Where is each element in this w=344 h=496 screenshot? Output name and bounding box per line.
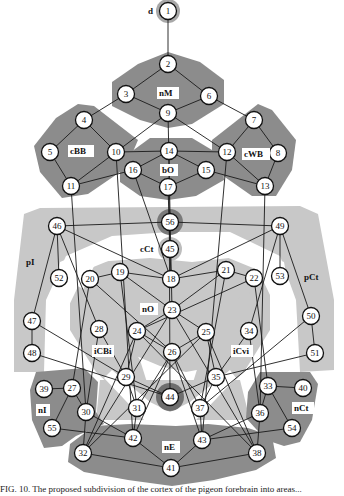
node-label: 38 — [253, 448, 263, 458]
node-16: 16 — [125, 162, 142, 179]
node-15: 15 — [198, 162, 215, 179]
node-36: 36 — [252, 405, 269, 422]
node-52: 52 — [51, 270, 68, 287]
node-42: 42 — [125, 430, 142, 447]
region-label-cCt: cCt — [140, 244, 154, 254]
node-label: 49 — [276, 221, 286, 231]
node-label: 47 — [28, 316, 38, 326]
region-label-nM: nM — [159, 88, 173, 98]
region-label-bO: bO — [162, 165, 174, 175]
node-33: 33 — [260, 378, 277, 395]
node-32: 32 — [75, 445, 92, 462]
node-label: 35 — [212, 372, 222, 382]
node-21: 21 — [218, 262, 235, 279]
node-26: 26 — [164, 344, 181, 361]
node-label: 34 — [245, 326, 255, 336]
region-label-pI: pI — [26, 257, 35, 267]
node-13: 13 — [257, 178, 274, 195]
region-label-nO: nO — [142, 304, 154, 314]
region-label-cBB: cBB — [70, 146, 86, 156]
region-label-pCt: pCt — [304, 272, 319, 282]
node-29: 29 — [118, 369, 135, 386]
node-label: 39 — [40, 384, 50, 394]
node-56: 56 — [162, 214, 179, 231]
node-label: 12 — [223, 147, 232, 157]
node-label: 27 — [68, 383, 78, 393]
node-label: 9 — [166, 108, 171, 118]
node-label: 11 — [67, 181, 76, 191]
node-55: 55 — [44, 420, 61, 437]
node-18: 18 — [163, 271, 180, 288]
node-27: 27 — [64, 380, 81, 397]
node-37: 37 — [192, 400, 209, 417]
node-19: 19 — [112, 264, 129, 281]
node-25: 25 — [198, 324, 215, 341]
node-label: 13 — [261, 181, 271, 191]
node-17: 17 — [160, 179, 177, 196]
node-label: 5 — [48, 147, 53, 157]
region-label-nCt: nCt — [294, 403, 309, 413]
node-40: 40 — [295, 380, 312, 397]
node-label: 7 — [252, 115, 257, 125]
node-label: 32 — [79, 448, 88, 458]
node-14: 14 — [161, 143, 178, 160]
node-label: 42 — [129, 433, 138, 443]
node-label: 50 — [307, 311, 317, 321]
node-label: 15 — [202, 165, 212, 175]
node-41: 41 — [163, 460, 180, 477]
node-12: 12 — [219, 144, 236, 161]
node-24: 24 — [129, 323, 146, 340]
node-50: 50 — [303, 308, 320, 325]
region-label-d: d — [148, 6, 153, 16]
node-label: 25 — [202, 327, 212, 337]
node-45: 45 — [162, 241, 179, 258]
node-label: 19 — [116, 267, 126, 277]
node-4: 4 — [76, 112, 93, 129]
node-label: 55 — [48, 423, 58, 433]
node-label: 48 — [28, 348, 38, 358]
node-label: 43 — [198, 435, 208, 445]
node-10: 10 — [108, 144, 125, 161]
region-label-iCBi: iCBi — [94, 346, 112, 356]
node-28: 28 — [91, 321, 108, 338]
node-label: 45 — [166, 244, 176, 254]
node-label: 16 — [129, 165, 139, 175]
node-label: 6 — [207, 91, 212, 101]
diagram-stage: 1236947510141281615171113564649455220191… — [0, 0, 344, 496]
node-label: 37 — [196, 403, 206, 413]
node-35: 35 — [208, 369, 225, 386]
node-label: 33 — [264, 381, 274, 391]
node-label: 26 — [168, 347, 178, 357]
node-7: 7 — [246, 112, 263, 129]
node-label: 14 — [165, 146, 175, 156]
node-label: 46 — [53, 221, 63, 231]
node-label: 51 — [311, 348, 320, 358]
node-label: 21 — [222, 265, 231, 275]
node-48: 48 — [24, 345, 41, 362]
node-label: 31 — [133, 403, 142, 413]
node-label: 28 — [95, 324, 105, 334]
node-53: 53 — [272, 268, 289, 285]
region-label-nE: nE — [164, 442, 175, 452]
node-38: 38 — [249, 445, 266, 462]
node-44: 44 — [162, 389, 179, 406]
node-23: 23 — [164, 302, 181, 319]
region-label-iCvi: iCvi — [233, 346, 250, 356]
node-label: 44 — [166, 392, 176, 402]
node-6: 6 — [201, 88, 218, 105]
node-46: 46 — [49, 218, 66, 235]
node-20: 20 — [82, 271, 99, 288]
node-9: 9 — [160, 105, 177, 122]
node-43: 43 — [194, 432, 211, 449]
node-label: 10 — [112, 147, 122, 157]
region-label-cWB: cWB — [244, 149, 263, 159]
node-2: 2 — [160, 56, 177, 73]
node-label: 56 — [166, 217, 176, 227]
node-31: 31 — [129, 400, 146, 417]
node-label: 3 — [124, 89, 129, 99]
node-label: 36 — [256, 408, 266, 418]
figure-caption: FIG. 10. The proposed subdivision of the… — [0, 484, 344, 496]
node-22: 22 — [246, 270, 263, 287]
node-label: 52 — [55, 273, 64, 283]
node-label: 29 — [122, 372, 132, 382]
